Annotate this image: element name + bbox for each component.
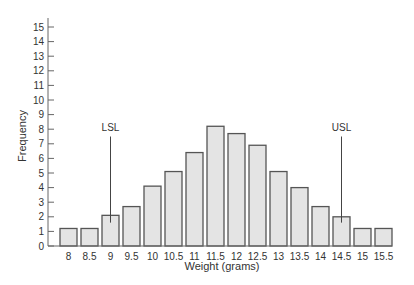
y-tick-label: 15	[33, 22, 45, 33]
y-axis-ticks: 0123456789101112131415	[33, 22, 54, 252]
usl-label: USL	[332, 122, 352, 133]
x-tick-label: 13	[273, 251, 285, 262]
y-tick-label: 1	[38, 226, 44, 237]
bar-15.5	[375, 228, 392, 246]
x-tick-label: 9.5	[125, 251, 139, 262]
x-tick-label: 8	[66, 251, 72, 262]
bar-12.5	[249, 145, 266, 246]
y-tick-label: 14	[33, 36, 45, 47]
y-tick-label: 7	[38, 138, 44, 149]
y-tick-label: 3	[38, 197, 44, 208]
y-tick-label: 13	[33, 51, 45, 62]
bar-14	[312, 207, 329, 246]
x-tick-label: 15	[357, 251, 369, 262]
y-tick-label: 4	[38, 182, 44, 193]
bar-13	[270, 172, 287, 246]
x-tick-label: 14	[315, 251, 327, 262]
bars	[60, 126, 392, 246]
bar-8	[60, 228, 77, 246]
x-tick-label: 10.5	[164, 251, 184, 262]
x-tick-label: 8.5	[83, 251, 97, 262]
y-tick-label: 0	[38, 241, 44, 252]
bar-10.5	[165, 172, 182, 246]
x-axis-title: Weight (grams)	[185, 260, 260, 272]
y-tick-label: 2	[38, 211, 44, 222]
bar-15	[354, 228, 371, 246]
y-tick-label: 9	[38, 109, 44, 120]
x-tick-label: 14.5	[332, 251, 352, 262]
bar-11	[186, 153, 203, 246]
y-tick-label: 10	[33, 95, 45, 106]
x-tick-label: 9	[108, 251, 114, 262]
bar-8.5	[81, 228, 98, 246]
histogram-chart: 0123456789101112131415 88.599.51010.5111…	[0, 0, 414, 285]
bar-13.5	[291, 188, 308, 246]
y-tick-label: 11	[34, 80, 45, 91]
x-tick-label: 13.5	[290, 251, 310, 262]
x-tick-label: 15.5	[374, 251, 394, 262]
y-tick-label: 8	[38, 124, 44, 135]
bar-11.5	[207, 126, 224, 246]
y-tick-label: 5	[38, 168, 44, 179]
bar-10	[144, 186, 161, 246]
bar-12	[228, 134, 245, 246]
x-tick-label: 10	[147, 251, 159, 262]
y-axis-title: Frequency	[16, 110, 28, 162]
lsl-label: LSL	[102, 122, 120, 133]
bar-9.5	[123, 207, 140, 246]
y-tick-label: 12	[33, 65, 45, 76]
y-tick-label: 6	[38, 153, 44, 164]
